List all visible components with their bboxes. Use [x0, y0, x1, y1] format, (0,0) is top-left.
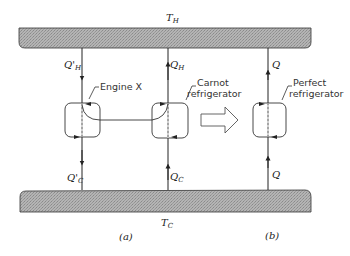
- cold-reservoir-label: TC: [161, 217, 174, 230]
- carnot-heat-bottom-label: QC: [170, 171, 184, 184]
- equivalence-arrow-icon: [201, 107, 238, 133]
- perfect-heat-top-label: Q: [272, 59, 280, 70]
- perfect-heat-bottom-label: Q: [272, 169, 280, 180]
- carnot-label-line2: refrigerator: [187, 88, 242, 99]
- cold-reservoir: [20, 190, 311, 212]
- carnot-label-line1: Carnot: [197, 77, 229, 88]
- perfect-label-line1: Perfect: [293, 77, 327, 88]
- engine-x-label: Engine X: [100, 81, 143, 92]
- caption-b: (b): [265, 230, 279, 241]
- caption-a: (a): [119, 231, 133, 242]
- hot-reservoir: [19, 28, 311, 48]
- carnot-heat-top-label: QH: [170, 59, 185, 72]
- heat-out-engine-label: Q'C: [67, 172, 84, 185]
- perfect-label-line2: refrigerator: [289, 88, 344, 99]
- heat-in-engine-label: Q'H: [64, 59, 82, 72]
- hot-reservoir-label: TH: [166, 12, 180, 25]
- second-law-diagram: TH TC Engine X Q'H Q'C Carnot refrigerat…: [0, 0, 350, 256]
